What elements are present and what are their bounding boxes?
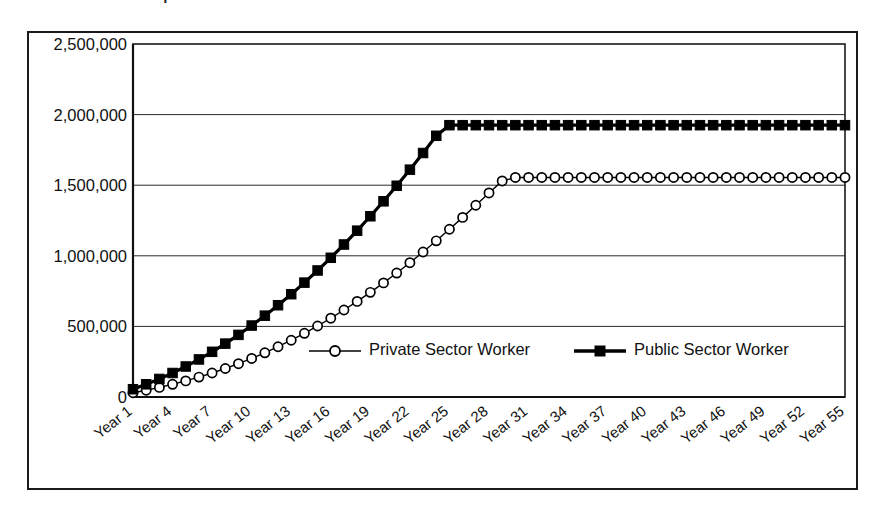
series-marker <box>392 181 402 191</box>
series-marker <box>379 278 388 287</box>
series-marker <box>590 120 600 130</box>
series-marker <box>405 258 414 267</box>
series-marker <box>642 120 652 130</box>
x-tick-label: Year 1 <box>91 402 135 442</box>
series-marker <box>352 226 362 236</box>
y-tick-label: 1,500,000 <box>54 176 127 194</box>
cropped-title-remnant: Comparison of Accumulated Pension Wealth <box>0 0 875 12</box>
pension-growth-line-chart: 0500,0001,000,0001,500,0002,000,0002,500… <box>29 33 860 492</box>
y-tick-label: 1,000,000 <box>54 247 127 265</box>
legend-marker-filled-square-icon <box>595 346 605 356</box>
series-marker <box>550 120 560 130</box>
series-marker <box>695 173 704 182</box>
x-tick-label: Year 37 <box>559 402 610 447</box>
series-marker <box>181 362 191 372</box>
series-marker <box>656 120 666 130</box>
series-marker <box>669 173 678 182</box>
x-tick-label: Year 52 <box>757 402 808 447</box>
cropped-title-text: Comparison of Accumulated Pension Wealth <box>130 0 449 3</box>
series-marker <box>168 380 177 389</box>
series-marker <box>788 173 797 182</box>
gridlines-group <box>133 115 845 327</box>
legend-item[interactable]: Private Sector Worker <box>309 340 531 358</box>
series-marker <box>814 120 824 130</box>
series-marker <box>432 131 442 141</box>
series-marker <box>524 120 534 130</box>
series-marker <box>247 354 256 363</box>
series-marker <box>286 289 296 299</box>
series-marker <box>616 120 626 130</box>
x-tick-label: Year 4 <box>130 402 174 442</box>
series-marker <box>445 225 454 234</box>
series-marker <box>260 311 270 321</box>
series-marker <box>748 173 757 182</box>
series-marker <box>788 120 798 130</box>
series-marker <box>326 314 335 323</box>
y-tick-label: 500,000 <box>67 317 127 335</box>
series-marker <box>234 359 243 368</box>
chart-legend: Private Sector WorkerPublic Sector Worke… <box>309 340 789 358</box>
series-marker <box>524 173 533 182</box>
series-marker <box>273 342 282 351</box>
legend-label: Private Sector Worker <box>369 340 531 358</box>
series-marker <box>484 120 494 130</box>
series-marker <box>643 173 652 182</box>
y-tick-label: 2,500,000 <box>54 35 127 53</box>
series-marker <box>207 347 217 357</box>
x-tick-label: Year 10 <box>203 402 254 447</box>
series-marker <box>366 288 375 297</box>
series-marker <box>827 120 837 130</box>
series-marker <box>814 173 823 182</box>
series-marker <box>418 148 428 158</box>
series-marker <box>682 173 691 182</box>
x-tick-label: Year 40 <box>598 402 649 447</box>
series-marker <box>840 120 850 130</box>
x-tick-label: Year 34 <box>519 402 570 447</box>
x-tick-label: Year 13 <box>242 402 293 447</box>
series-marker <box>682 120 692 130</box>
x-axis-tick-labels: Year 1Year 4Year 7Year 10Year 13Year 16Y… <box>91 402 847 447</box>
series-marker <box>221 364 230 373</box>
series-marker <box>339 240 349 250</box>
legend-marker-open-circle-icon <box>330 346 340 356</box>
series-marker <box>234 330 244 340</box>
series-marker <box>300 329 309 338</box>
series-private-sector <box>128 173 849 398</box>
series-marker <box>748 120 758 130</box>
series-marker <box>616 173 625 182</box>
x-tick-label: Year 49 <box>717 402 768 447</box>
series-marker <box>537 173 546 182</box>
x-tick-label: Year 28 <box>440 402 491 447</box>
series-marker <box>577 120 587 130</box>
series-marker <box>669 120 679 130</box>
series-marker <box>471 201 480 210</box>
series-marker <box>432 236 441 245</box>
series-marker <box>708 120 718 130</box>
x-tick-label: Year 19 <box>321 402 372 447</box>
legend-item[interactable]: Public Sector Worker <box>574 340 789 358</box>
y-tick-label: 2,000,000 <box>54 106 127 124</box>
series-marker <box>221 339 231 349</box>
series-marker <box>194 372 203 381</box>
series-marker <box>577 173 586 182</box>
x-tick-label: Year 25 <box>401 402 452 447</box>
x-tick-label: Year 22 <box>361 402 412 447</box>
series-marker <box>550 173 559 182</box>
series-marker <box>563 120 573 130</box>
series-marker <box>379 197 389 207</box>
series-marker <box>313 321 322 330</box>
series-marker <box>287 336 296 345</box>
series-marker <box>629 173 638 182</box>
series-marker <box>458 213 467 222</box>
series-marker <box>471 120 481 130</box>
series-marker <box>722 173 731 182</box>
series-marker <box>273 300 283 310</box>
series-marker <box>445 120 455 130</box>
series-marker <box>353 297 362 306</box>
series-marker <box>840 173 849 182</box>
series-marker <box>774 173 783 182</box>
series-marker <box>155 374 165 384</box>
series-marker <box>761 173 770 182</box>
series-marker <box>735 173 744 182</box>
series-marker <box>656 173 665 182</box>
